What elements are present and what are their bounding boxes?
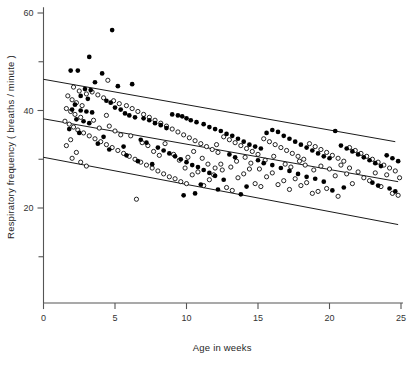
filled-circle-point [367, 158, 372, 163]
open-circle-point [293, 177, 297, 181]
filled-circle-point [207, 171, 212, 176]
filled-circle-point [390, 156, 395, 161]
filled-circle-point [350, 149, 355, 154]
open-circle-point [299, 183, 303, 187]
open-circle-point [336, 194, 340, 198]
open-circle-point [339, 163, 343, 167]
filled-circle-point [393, 189, 398, 194]
open-circle-point [393, 169, 397, 173]
filled-circle-point [227, 152, 232, 157]
filled-circle-point [279, 166, 284, 171]
filled-circle-point [78, 108, 83, 113]
open-circle-point [362, 176, 366, 180]
open-circle-point [116, 148, 120, 152]
open-circle-series [63, 78, 402, 201]
filled-circle-point [84, 109, 89, 114]
filled-circle-point [270, 128, 275, 133]
filled-circle-point [130, 82, 135, 87]
filled-circle-point [176, 113, 181, 118]
open-circle-point [397, 176, 401, 180]
x-axis-label: Age in weeks [193, 342, 252, 353]
filled-circle-point [100, 71, 105, 76]
open-circle-point [249, 161, 253, 165]
open-circle-point [239, 144, 243, 148]
open-circle-point [325, 186, 329, 190]
plot-axes [38, 7, 404, 309]
x-tick-label-25: 25 [396, 313, 406, 323]
open-circle-point [273, 143, 277, 147]
filled-circle-point [330, 188, 335, 193]
open-circle-point [134, 197, 138, 201]
open-circle-point [270, 171, 274, 175]
filled-circle-point [241, 139, 246, 144]
lower-line [44, 157, 399, 224]
open-circle-point [227, 138, 231, 142]
filled-circle-point [78, 94, 83, 99]
open-circle-point [91, 118, 95, 122]
open-circle-point [347, 166, 351, 170]
open-circle-point [176, 130, 180, 134]
filled-circle-point [310, 148, 315, 153]
filled-circle-point [316, 151, 321, 156]
open-circle-point [213, 166, 217, 170]
open-circle-point [282, 179, 286, 183]
y-axis-ticks [38, 13, 44, 257]
open-circle-point [316, 189, 320, 193]
x-tick-label-15: 15 [253, 313, 263, 323]
open-circle-point [167, 175, 171, 179]
open-circle-point [184, 182, 188, 186]
open-circle-point [297, 159, 301, 163]
open-circle-point [119, 133, 123, 137]
filled-circle-point [261, 161, 266, 166]
filled-circle-point [124, 153, 129, 158]
open-circle-point [387, 166, 391, 170]
open-circle-point [87, 134, 91, 138]
open-circle-point [67, 122, 71, 126]
open-circle-point [74, 150, 78, 154]
open-circle-point [77, 89, 81, 93]
filled-circle-point [144, 140, 149, 145]
filled-circle-point [344, 146, 349, 151]
filled-circle-point [113, 105, 118, 110]
open-circle-point [220, 168, 224, 172]
open-circle-point [206, 162, 210, 166]
open-circle-point [216, 150, 220, 154]
filled-circle-point [224, 132, 229, 137]
open-circle-point [64, 144, 68, 148]
filled-circle-point [256, 158, 261, 163]
filled-circle-point [104, 98, 109, 103]
open-circle-point [253, 182, 257, 186]
filled-circle-point [233, 155, 238, 160]
open-circle-point [190, 173, 194, 177]
open-circle-point [259, 184, 263, 188]
open-circle-point [276, 183, 280, 187]
filled-circle-point [190, 163, 195, 168]
open-circle-point [204, 144, 208, 148]
open-circle-point [117, 102, 121, 106]
filled-circle-point [93, 80, 98, 85]
open-circle-point [236, 176, 240, 180]
open-circle-point [229, 165, 233, 169]
open-circle-point [385, 173, 389, 177]
open-circle-point [196, 170, 200, 174]
open-circle-point [310, 191, 314, 195]
filled-circle-point [341, 185, 346, 190]
open-circle-point [84, 164, 88, 168]
open-circle-point [71, 85, 75, 89]
filled-circle-point [173, 154, 178, 159]
filled-circle-point [259, 146, 264, 151]
open-circle-point [257, 167, 261, 171]
filled-circle-point [384, 153, 389, 158]
filled-circle-point [247, 142, 252, 147]
open-circle-point [305, 181, 309, 185]
open-circle-point [136, 109, 140, 113]
open-circle-point [144, 163, 148, 167]
open-circle-point [264, 175, 268, 179]
open-circle-point [192, 149, 196, 153]
open-circle-point [312, 168, 316, 172]
open-circle-point [319, 147, 323, 151]
open-circle-point [96, 93, 100, 97]
open-circle-point [70, 98, 74, 102]
open-circle-point [267, 140, 271, 144]
filled-circle-point [138, 137, 143, 142]
